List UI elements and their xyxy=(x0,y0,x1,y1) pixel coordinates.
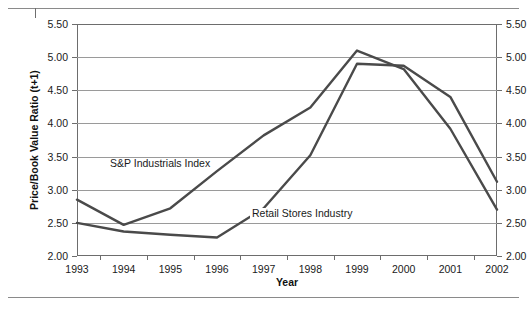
y-axis-label-right: 3.50 xyxy=(506,152,526,163)
x-axis-label: 1996 xyxy=(205,264,228,275)
y-axis-tick-right xyxy=(497,123,502,124)
x-axis-label: 1997 xyxy=(252,264,275,275)
y-axis-label-right: 4.50 xyxy=(506,85,526,96)
y-axis-label-left: 4.00 xyxy=(48,118,68,129)
y-axis-tick-right xyxy=(497,190,502,191)
y-axis-label-right: 2.50 xyxy=(506,218,526,229)
chart-figure: 5.505.505.005.004.504.504.004.003.503.50… xyxy=(0,0,527,312)
y-axis-label-right: 3.00 xyxy=(506,185,526,196)
x-axis-label: 2002 xyxy=(485,264,508,275)
x-axis-title: Year xyxy=(77,276,497,288)
x-axis-label: 1998 xyxy=(299,264,322,275)
y-axis-label-right: 4.00 xyxy=(506,118,526,129)
y-axis-label-right: 2.00 xyxy=(506,251,526,262)
y-axis-label-left: 5.50 xyxy=(48,19,68,30)
x-axis-label: 1999 xyxy=(345,264,368,275)
x-axis-label: 2001 xyxy=(439,264,462,275)
figure-bottom-rule xyxy=(8,297,519,298)
y-axis-tick-left xyxy=(72,256,77,257)
y-axis-tick-right xyxy=(497,90,502,91)
plot-area: 5.505.505.005.004.504.504.004.003.503.50… xyxy=(77,24,497,256)
series-label-sp-industrials: S&P Industrials Index xyxy=(108,158,212,170)
figure-top-rule-tick xyxy=(35,8,36,18)
y-axis-label-right: 5.00 xyxy=(506,52,526,63)
y-axis-label-left: 4.50 xyxy=(48,85,68,96)
y-axis-label-left: 5.00 xyxy=(48,52,68,63)
y-axis-label-left: 2.00 xyxy=(48,251,68,262)
x-axis-label: 2000 xyxy=(392,264,415,275)
y-axis-label-right: 5.50 xyxy=(506,19,526,30)
y-axis-label-left: 3.50 xyxy=(48,152,68,163)
x-axis-label: 1993 xyxy=(65,264,88,275)
y-axis-tick-right xyxy=(497,157,502,158)
series-label-retail-stores: Retail Stores Industry xyxy=(250,208,354,220)
y-axis-tick-right xyxy=(497,256,502,257)
y-axis-label-left: 3.00 xyxy=(48,185,68,196)
y-axis-tick-right xyxy=(497,24,502,25)
figure-top-rule xyxy=(8,8,519,9)
y-axis-tick-right xyxy=(497,57,502,58)
y-axis-title: Price/Book Value Ratio (t+1) xyxy=(28,24,40,256)
x-axis-label: 1994 xyxy=(112,264,135,275)
y-axis-tick-right xyxy=(497,223,502,224)
x-axis-label: 1995 xyxy=(159,264,182,275)
series-line-retail-stores xyxy=(77,51,497,225)
series-lines xyxy=(77,24,497,256)
y-axis-label-left: 2.50 xyxy=(48,218,68,229)
